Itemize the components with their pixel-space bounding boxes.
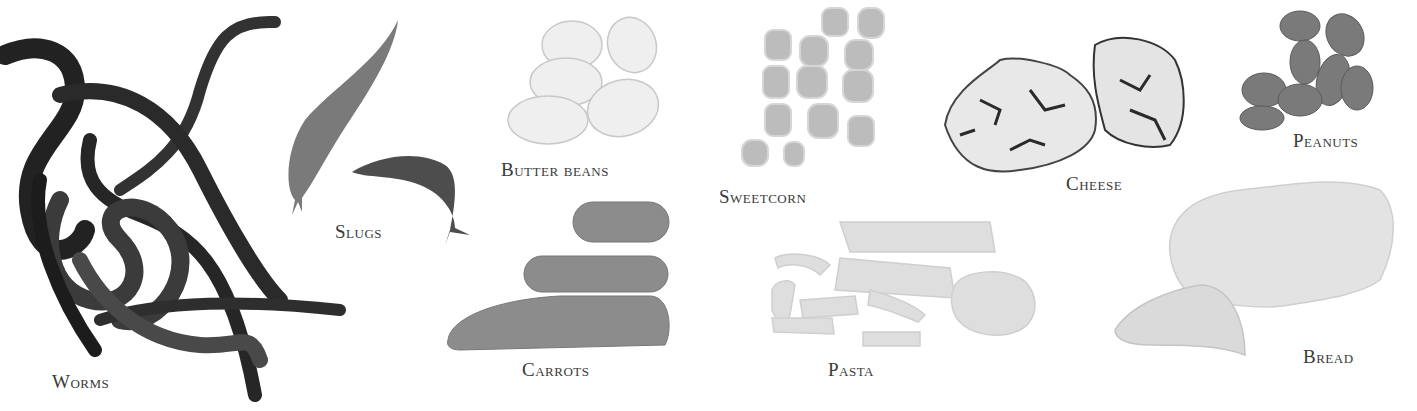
label-pasta: Pasta <box>828 359 874 381</box>
label-butter-beans: Butter beans <box>501 159 609 181</box>
pasta-image <box>772 222 1035 346</box>
label-peanuts: Peanuts <box>1293 130 1358 152</box>
bread-image <box>1115 182 1393 355</box>
label-worms: Worms <box>52 371 109 393</box>
cheese-image <box>945 38 1184 172</box>
label-bread: Bread <box>1303 346 1354 368</box>
slugs-image <box>288 20 470 245</box>
worms-image <box>5 22 340 395</box>
label-carrots: Carrots <box>522 359 589 381</box>
label-sweetcorn: Sweetcorn <box>719 186 806 208</box>
butter-beans-image <box>508 10 665 144</box>
sweetcorn-image <box>742 8 884 166</box>
bait-illustration <box>0 0 1417 411</box>
label-slugs: Slugs <box>335 221 382 243</box>
carrots-image <box>448 202 670 350</box>
label-cheese: Cheese <box>1066 173 1122 195</box>
peanuts-image <box>1240 7 1373 130</box>
